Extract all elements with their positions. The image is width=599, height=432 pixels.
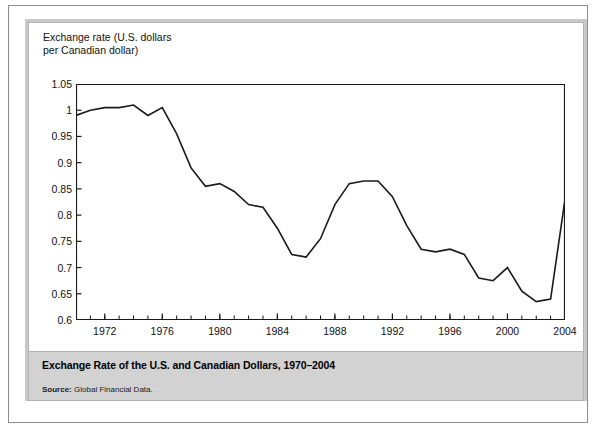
figure-source-band: Source: Global Financial Data. [28,380,584,401]
y-axis-tick-label: 1.05 [52,78,72,90]
x-axis-tick-label: 2004 [553,325,576,337]
source-label: Source: [42,385,72,394]
y-axis-tick-label: 0.75 [52,235,72,247]
y-axis-tick-label: 1 [66,104,72,116]
x-axis-tick-label: 1976 [151,325,174,337]
x-axis-tick-label: 1972 [93,325,116,337]
plot-area [76,84,565,320]
figure-frame: Exchange rate (U.S. dollars per Canadian… [8,5,588,423]
figure-title: Exchange Rate of the U.S. and Canadian D… [42,359,335,371]
x-axis-tick-labels: 197219761980198419881992199620002004 [29,325,585,345]
y-axis-tick-label: 0.95 [52,130,72,142]
x-axis-tick-label: 1988 [323,325,346,337]
y-axis-tick-label: 0.7 [57,262,72,274]
x-axis-major-ticks [105,314,565,320]
y-axis-tick-label: 0.8 [57,209,72,221]
source-value: Global Financial Data. [74,385,153,394]
x-axis-tick-label: 1996 [438,325,461,337]
figure-caption-band: Exchange Rate of the U.S. and Canadian D… [28,352,584,380]
y-axis-tick-labels: 0.60.650.70.750.80.850.90.9511.05 [29,23,72,353]
chart-card: Exchange rate (U.S. dollars per Canadian… [28,22,584,352]
x-axis-tick-label: 2000 [496,325,519,337]
exchange-rate-series-line [76,105,565,302]
x-axis-tick-label: 1992 [381,325,404,337]
y-axis-tick-label: 0.65 [52,288,72,300]
axis-lines [76,84,565,320]
y-axis-tick-label: 0.85 [52,183,72,195]
figure-source: Source: Global Financial Data. [42,385,153,394]
y-axis-ticks [77,84,82,320]
x-axis-tick-label: 1984 [266,325,289,337]
y-axis-tick-label: 0.9 [57,157,72,169]
x-axis-tick-label: 1980 [208,325,231,337]
exchange-rate-line-chart [76,84,565,320]
